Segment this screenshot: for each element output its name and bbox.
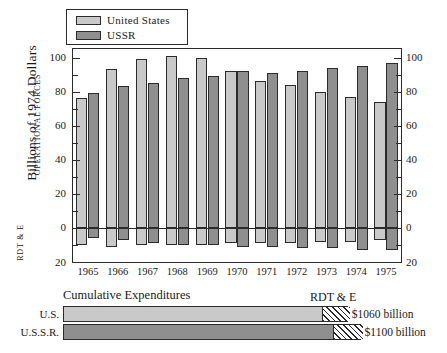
y-tick-left-80 [73,92,80,93]
legend-swatch-united-states [76,16,101,25]
bar-us-operational-1969 [196,58,207,228]
bar-us-operational-1968 [166,56,177,228]
y-axis-tick-label-left-20-4: 20 [40,188,66,199]
bar-ussr-rdte-1972 [297,228,308,248]
bar-us-operational-1971 [255,81,266,228]
bar-ussr-rdte-1973 [327,228,338,248]
y-tick-left-20 [73,262,80,263]
bar-us-operational-1965 [76,98,87,228]
y-tick-left-100 [73,58,80,59]
legend-label-united-states: United States [107,15,170,26]
y-axis-tick-label-left-20-6: 20 [40,257,66,268]
legend-item-united-states: United States [76,13,187,28]
y-axis-tick-label-right-80-1: 80 [406,86,432,97]
section-label-rdte: RDT & E [16,221,25,265]
cumulative-value-1: $1100 billion [365,327,426,338]
x-axis-label-1975: 1975 [369,266,403,277]
y-axis-tick-label-left-80-1: 80 [40,86,66,97]
y-tick-left-60 [73,126,80,127]
y-axis-tick-label-left-100-0: 100 [40,52,66,63]
bar-us-operational-1970 [225,71,236,228]
bar-ussr-rdte-1966 [118,228,129,240]
y-tick-right-60 [394,126,401,127]
legend-swatch-ussr [76,31,101,40]
bar-us-operational-1966 [106,69,117,227]
bar-ussr-operational-1965 [88,93,99,228]
bar-ussr-operational-1968 [178,78,189,228]
bar-ussr-rdte-1974 [357,228,368,250]
bar-ussr-rdte-1968 [178,228,189,245]
y-tick-right-20 [394,194,401,195]
y-axis-tick-label-left-60-2: 60 [40,120,66,131]
y-tick-right-90 [396,75,401,76]
bar-ussr-operational-1969 [208,76,219,228]
y-tick-left-40 [73,160,80,161]
cumulative-row-label-1: U.S.S.R. [0,327,59,338]
chart-figure: United States USSR Billions of 1974 Doll… [0,0,447,353]
cumulative-row-label-0: U.S. [0,309,59,320]
y-axis-tick-label-right-0-5: 0 [406,222,432,233]
y-tick-left-10 [73,245,78,246]
y-tick-left-20 [73,194,80,195]
bar-ussr-operational-1972 [297,71,308,228]
y-axis-tick-label-right-60-2: 60 [406,120,432,131]
cumulative-title: Cumulative Expenditures [63,288,190,303]
bar-us-rdte-1971 [255,228,266,243]
y-tick-right-100 [394,58,401,59]
cumulative-rdte-caption: RDT & E [310,290,356,305]
bar-ussr-operational-1966 [118,86,129,227]
cumulative-rdte-segment-1 [333,325,363,339]
bar-ussr-operational-1974 [357,66,368,228]
y-tick-right-10 [396,211,401,212]
y-axis-tick-label-right-20-6: 20 [406,257,432,268]
y-tick-right-40 [394,160,401,161]
bar-us-operational-1967 [136,59,147,228]
bar-ussr-rdte-1971 [267,228,278,247]
bar-ussr-operational-1967 [148,83,159,228]
bar-us-rdte-1973 [315,228,326,242]
cumulative-rdte-segment-0 [322,307,350,321]
bar-us-operational-1973 [315,92,326,228]
bar-ussr-rdte-1970 [237,228,248,247]
bar-ussr-operational-1973 [327,68,338,228]
bar-ussr-rdte-1965 [88,228,99,238]
bar-ussr-rdte-1975 [386,228,397,250]
y-tick-right-0 [394,228,401,229]
cumulative-expenditures-section: Cumulative Expenditures RDT & E U.S.$106… [0,288,447,353]
y-axis-tick-label-right-100-0: 100 [406,52,432,63]
bar-us-rdte-1965 [76,228,87,245]
y-tick-left-0 [73,228,80,229]
cumulative-operational-segment-1 [64,325,333,339]
y-tick-left-10 [73,211,78,212]
y-tick-left-30 [73,177,78,178]
y-axis-tick-label-right-40-3: 40 [406,154,432,165]
bar-us-rdte-1966 [106,228,117,247]
y-axis-tick-label-left-0-5: 0 [40,222,66,233]
bar-us-rdte-1975 [374,228,385,240]
bar-ussr-operational-1970 [237,71,248,228]
legend: United States USSR [66,9,188,45]
y-tick-left-50 [73,143,78,144]
plot-area [73,49,401,262]
y-tick-right-20 [394,262,401,263]
bar-us-rdte-1968 [166,228,177,245]
y-tick-left-90 [73,75,78,76]
bar-us-rdte-1970 [225,228,236,243]
y-axis-tick-label-left-40-3: 40 [40,154,66,165]
bar-us-operational-1974 [345,97,356,228]
bar-ussr-operational-1975 [386,63,397,228]
y-tick-left-70 [73,109,78,110]
bar-us-rdte-1969 [196,228,207,245]
bar-ussr-rdte-1969 [208,228,219,245]
legend-item-ussr: USSR [76,28,187,43]
y-axis-tick-label-right-20-4: 20 [406,188,432,199]
bar-us-rdte-1974 [345,228,356,242]
bar-us-rdte-1972 [285,228,296,243]
bar-us-rdte-1967 [136,228,147,245]
y-tick-right-50 [396,143,401,144]
y-tick-right-10 [396,245,401,246]
y-tick-right-30 [396,177,401,178]
cumulative-operational-segment-0 [64,307,322,321]
bar-us-operational-1975 [374,102,385,228]
bar-ussr-operational-1971 [267,73,278,228]
